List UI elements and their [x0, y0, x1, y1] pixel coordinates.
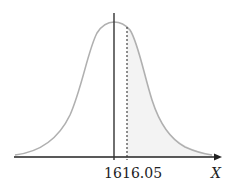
axis-label-x: X [210, 165, 222, 181]
normal-distribution-chart: 16 16.05 X [0, 0, 229, 186]
shaded-tail-region [127, 28, 212, 157]
x-axis-arrow-icon [214, 154, 222, 161]
tick-label-marked: 16.05 [122, 165, 162, 181]
tick-label-mean: 16 [104, 165, 122, 181]
